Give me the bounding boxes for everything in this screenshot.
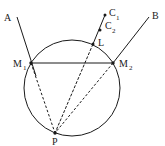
circle (24, 40, 120, 136)
point-C2 (99, 29, 102, 32)
label-C2: C (105, 20, 112, 31)
label-C1: C (109, 7, 116, 18)
label-M1-sub: 1 (23, 64, 27, 72)
geometry-diagram: A B C 1 C 2 L M 1 M 2 P (0, 0, 165, 146)
label-L: L (98, 37, 104, 48)
label-C1-sub: 1 (116, 14, 120, 22)
label-P: P (52, 136, 58, 146)
point-C1 (104, 14, 107, 17)
point-L (92, 43, 95, 46)
label-C2-sub: 2 (112, 27, 116, 35)
point-P (53, 131, 56, 134)
label-B: B (152, 10, 159, 21)
line-B-M2 (113, 17, 149, 63)
label-M1: M (13, 58, 22, 69)
point-M2 (111, 61, 114, 64)
label-M2-sub: 2 (129, 64, 133, 72)
dashed-M1-P (31, 63, 55, 133)
point-M1 (29, 61, 32, 64)
label-M2: M (119, 58, 128, 69)
line-L-P (55, 44, 93, 133)
dashed-M2-P (55, 63, 113, 133)
label-A: A (4, 12, 12, 23)
